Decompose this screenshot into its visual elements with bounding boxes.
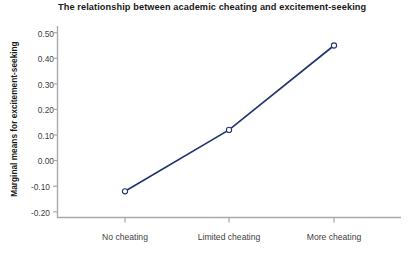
data-point-marker[interactable]	[226, 127, 231, 132]
data-point-marker[interactable]	[122, 189, 127, 194]
chart-figure: The relationship between academic cheati…	[0, 0, 415, 255]
data-point-marker[interactable]	[331, 43, 336, 48]
x-axis-ticks	[125, 218, 334, 223]
data-series-line	[125, 46, 334, 192]
plot-area	[0, 0, 415, 255]
